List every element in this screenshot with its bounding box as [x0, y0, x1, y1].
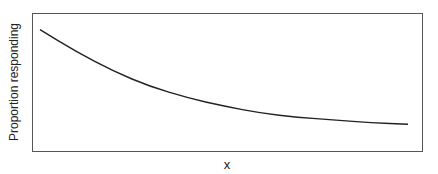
x-axis-label: x: [224, 157, 231, 172]
y-axis-label: Proportion responding: [7, 23, 21, 141]
response-curve: [0, 0, 438, 174]
